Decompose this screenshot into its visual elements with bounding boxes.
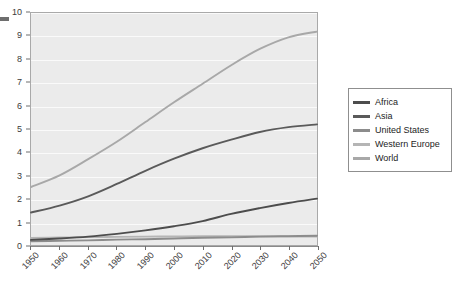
legend-swatch-icon bbox=[353, 115, 370, 118]
y-axis-tick-label: 8 bbox=[17, 54, 22, 64]
legend-item-label: World bbox=[375, 153, 398, 163]
x-axis-tick-label: 1970 bbox=[77, 250, 98, 271]
y-axis-tick-label: 7 bbox=[17, 77, 22, 87]
x-axis-tick-mark bbox=[260, 246, 261, 250]
legend-swatch-icon bbox=[353, 101, 370, 104]
x-axis-tick-mark bbox=[318, 246, 319, 250]
x-axis-tick-label: 2030 bbox=[250, 250, 271, 271]
legend-swatch-icon bbox=[353, 129, 370, 132]
x-axis-tick-mark bbox=[145, 246, 146, 250]
x-axis-tick-label: 2010 bbox=[193, 250, 214, 271]
y-axis-tick-label: 10 bbox=[12, 7, 22, 17]
legend-swatch-icon bbox=[353, 157, 370, 160]
chart-figure: 012345678910 195019601970198019902000201… bbox=[0, 0, 460, 284]
legend-item-label: Western Europe bbox=[375, 139, 440, 149]
legend-item-asia[interactable]: Asia bbox=[353, 109, 446, 123]
x-axis-tick-mark bbox=[174, 246, 175, 250]
series-line-africa bbox=[31, 199, 317, 240]
series-lines bbox=[31, 13, 317, 245]
legend-item-western-europe[interactable]: Western Europe bbox=[353, 137, 446, 151]
legend-item-world[interactable]: World bbox=[353, 151, 446, 165]
y-axis-tick-label: 1 bbox=[17, 218, 22, 228]
x-axis-tick-label: 1990 bbox=[135, 250, 156, 271]
x-axis-tick-label: 2050 bbox=[308, 250, 329, 271]
x-axis-tick-mark bbox=[59, 246, 60, 250]
series-line-world bbox=[31, 32, 317, 187]
x-axis-tick-label: 1960 bbox=[49, 250, 70, 271]
chart-legend: AfricaAsiaUnited StatesWestern EuropeWor… bbox=[348, 88, 452, 172]
x-axis-tick-label: 2000 bbox=[164, 250, 185, 271]
legend-swatch-icon bbox=[353, 143, 370, 146]
x-axis-tick-mark bbox=[289, 246, 290, 250]
legend-item-label: United States bbox=[375, 125, 429, 135]
x-axis-tick-label: 2020 bbox=[221, 250, 242, 271]
y-axis-tick-label: 0 bbox=[17, 241, 22, 251]
y-axis-tick-label: 5 bbox=[17, 124, 22, 134]
x-axis-tick-mark bbox=[88, 246, 89, 250]
x-axis-tick-label: 1980 bbox=[106, 250, 127, 271]
x-axis-tick-mark bbox=[232, 246, 233, 250]
y-axis-tick-label: 6 bbox=[17, 101, 22, 111]
x-axis-tick-label: 2040 bbox=[279, 250, 300, 271]
y-axis-tick-label: 3 bbox=[17, 171, 22, 181]
x-axis-tick-mark bbox=[30, 246, 31, 250]
legend-item-label: Africa bbox=[375, 97, 398, 107]
legend-item-united-states[interactable]: United States bbox=[353, 123, 446, 137]
y-axis: 012345678910 bbox=[0, 0, 30, 284]
y-axis-tick-label: 4 bbox=[17, 147, 22, 157]
legend-item-label: Asia bbox=[375, 111, 393, 121]
legend-item-africa[interactable]: Africa bbox=[353, 95, 446, 109]
y-axis-tick-label: 2 bbox=[17, 194, 22, 204]
x-axis-tick-mark bbox=[203, 246, 204, 250]
plot-panel bbox=[30, 12, 318, 246]
y-axis-tick-label: 9 bbox=[17, 30, 22, 40]
x-axis-tick-mark bbox=[116, 246, 117, 250]
